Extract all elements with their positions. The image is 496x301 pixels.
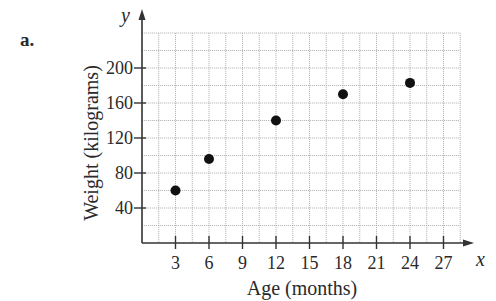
x-axis-arrow-icon	[463, 240, 474, 247]
y-tick-label: 160	[106, 93, 133, 113]
x-tick-label: 27	[435, 253, 453, 273]
panel-label: a.	[20, 29, 34, 50]
x-axis-symbol: x	[475, 248, 485, 270]
x-tick-label: 12	[267, 253, 285, 273]
y-tick-label: 120	[106, 128, 133, 148]
y-axis-symbol: y	[119, 4, 130, 27]
y-tick-label: 200	[106, 58, 133, 78]
x-tick-label: 15	[301, 253, 319, 273]
data-point	[405, 78, 415, 88]
scatter-chart: 3691215182124274080120160200 a. y x Age …	[0, 0, 496, 301]
data-point	[338, 89, 348, 99]
y-tick-label: 40	[115, 198, 133, 218]
x-tick-label: 18	[334, 253, 352, 273]
data-point	[271, 116, 281, 126]
x-axis-title: Age (months)	[247, 277, 358, 300]
data-point	[204, 154, 214, 164]
grid-lines	[142, 33, 460, 243]
x-tick-label: 3	[171, 253, 180, 273]
axis-ticks: 3691215182124274080120160200	[106, 58, 453, 273]
y-axis-arrow-icon	[139, 9, 146, 20]
y-axis-title: Weight (kilograms)	[80, 65, 103, 221]
x-tick-label: 21	[368, 253, 386, 273]
x-tick-label: 6	[205, 253, 214, 273]
data-point	[171, 186, 181, 196]
axes	[139, 9, 475, 247]
x-tick-label: 9	[238, 253, 247, 273]
x-tick-label: 24	[401, 253, 419, 273]
y-tick-label: 80	[115, 163, 133, 183]
